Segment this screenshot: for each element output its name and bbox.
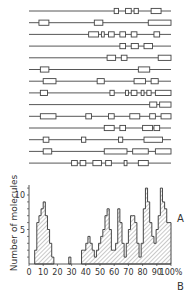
x-tick-label: 70 [123,268,133,277]
denatured-segment [148,20,171,25]
denatured-segment [124,161,127,166]
denatured-segment [114,8,118,13]
x-tick-label: 20 [52,268,62,277]
molecule-line [29,44,171,49]
denatured-segment [126,90,129,95]
denatured-segment [93,161,102,166]
denatured-segment [110,90,114,95]
denatured-segment [104,149,127,154]
x-tick-label: 100% [160,268,183,277]
denatured-segment [151,8,161,13]
denatured-segment [120,125,126,130]
denatured-segment [120,32,126,37]
histogram-bars [69,257,71,264]
molecule-line [29,32,171,37]
denatured-segment [39,20,49,25]
histogram-bars [82,188,171,264]
denatured-segment [97,79,104,84]
y-tick-label: 5 [20,226,25,235]
panel-a-label: A [177,213,184,224]
denatured-segment [101,32,104,37]
molecule-map-panel-a [29,8,171,165]
denatured-segment [106,161,112,166]
y-axis-label: Number of molecules [9,168,19,278]
denatured-segment [126,8,132,13]
denatured-segment [131,32,137,37]
x-tick-label: 40 [81,268,91,277]
denatured-segment [40,114,56,119]
x-tick-label: 60 [109,268,119,277]
denatured-segment [158,55,171,60]
x-tick-label: 50 [95,268,105,277]
denatured-segment [151,79,158,84]
x-tick-label: 0 [26,268,31,277]
molecule-line [29,20,171,25]
denatured-segment [109,32,115,37]
denatured-segment [144,137,162,142]
denatured-segment [133,149,149,154]
denatured-segment [40,90,47,95]
denatured-segment [120,44,126,49]
denatured-segment [121,55,127,60]
denatured-segment [154,32,160,37]
x-tick-label: 80 [138,268,148,277]
molecule-line [29,125,171,130]
denatured-segment [118,137,122,142]
denatured-segment [138,161,148,166]
molecule-line [29,67,171,72]
denatured-segment [154,125,160,130]
denatured-segment [144,44,153,49]
denatured-segment [161,114,171,119]
denatured-segment [130,114,140,119]
molecule-line [29,149,171,154]
denatured-segment [94,20,103,25]
denatured-segment [86,114,92,119]
molecule-line [29,102,171,107]
denatured-segment [155,149,171,154]
molecule-line [29,79,171,84]
x-tick-label: 10 [38,268,48,277]
histogram-bars [35,202,54,264]
figure: 5100102030405060708090100% [0,0,193,296]
denatured-segment [150,102,157,107]
molecule-line [29,114,171,119]
denatured-segment [107,55,116,60]
denatured-segment [131,90,137,95]
denatured-segment [80,161,86,166]
denatured-segment [150,114,156,119]
molecule-line [29,55,171,60]
denatured-segment [143,125,153,130]
denatured-segment [134,8,138,13]
molecule-line [29,8,171,13]
molecule-line [29,90,171,95]
denatured-segment [141,90,144,95]
denatured-segment [72,161,78,166]
panel-b-label: B [177,281,184,292]
molecule-line [29,137,171,142]
denatured-segment [43,149,52,154]
denatured-segment [89,32,99,37]
denatured-segment [134,79,145,84]
denatured-segment [40,67,49,72]
denatured-segment [43,79,56,84]
x-tick-label: 30 [67,268,77,277]
denatured-segment [43,137,49,142]
histogram-panel-b: 5100102030405060708090100% [15,185,183,277]
denatured-segment [138,67,149,72]
denatured-segment [104,125,114,130]
denatured-segment [131,44,138,49]
denatured-segment [109,114,115,119]
denatured-segment [82,137,86,142]
molecule-line [29,161,171,166]
denatured-segment [160,102,171,107]
denatured-segment [147,90,151,95]
denatured-segment [155,90,171,95]
